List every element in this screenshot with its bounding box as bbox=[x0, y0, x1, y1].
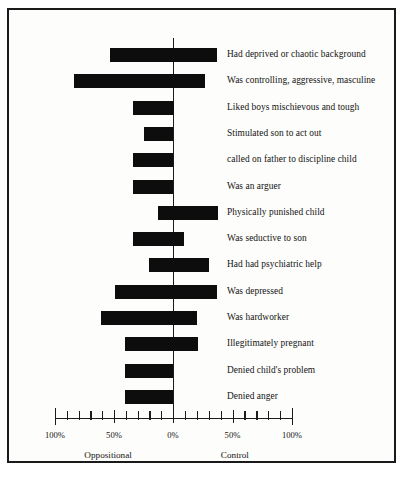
bar-label: Denied child's problem bbox=[227, 361, 315, 379]
axis-tick bbox=[149, 411, 150, 420]
bar bbox=[115, 285, 217, 299]
bar bbox=[133, 153, 173, 167]
axis-tick-label: 100% bbox=[282, 430, 302, 440]
bar-row: Illegitimately pregnant bbox=[9, 331, 394, 357]
bar-row: Had deprived or chaotic background bbox=[9, 42, 394, 68]
bar-label: Illegitimately pregnant bbox=[227, 334, 314, 352]
bar-label: Physically punished child bbox=[227, 203, 325, 221]
bar bbox=[74, 74, 205, 88]
bar-label: Denied anger bbox=[227, 387, 278, 405]
axis-tick bbox=[209, 411, 210, 420]
axis-tick-label: 50% bbox=[106, 430, 122, 440]
bar-label: Was hardworker bbox=[227, 308, 289, 326]
figure-frame: Had deprived or chaotic backgroundWas co… bbox=[7, 8, 396, 463]
bar-label: Was depressed bbox=[227, 282, 283, 300]
bar-label: Had deprived or chaotic background bbox=[227, 45, 366, 63]
bar-row: Liked boys mischievous and tough bbox=[9, 95, 394, 121]
bar bbox=[110, 48, 217, 62]
axis-tick-label: 100% bbox=[45, 430, 65, 440]
bar-row: Denied child's problem bbox=[9, 358, 394, 384]
axis-tick bbox=[256, 411, 257, 420]
bar-row: Was seductive to son bbox=[9, 226, 394, 252]
axis-tick bbox=[126, 411, 127, 420]
axis-tick bbox=[138, 411, 139, 420]
bar bbox=[158, 206, 219, 220]
axis-tick bbox=[102, 411, 103, 420]
axis-group-label-oppositional: Oppositional bbox=[84, 450, 131, 460]
axis-tick-label: 50% bbox=[225, 430, 241, 440]
bar-row: Was depressed bbox=[9, 279, 394, 305]
bar bbox=[149, 258, 208, 272]
axis-tick bbox=[161, 411, 162, 420]
bar-row: Was an arguer bbox=[9, 174, 394, 200]
bar-row: Physically punished child bbox=[9, 200, 394, 226]
axis-tick bbox=[79, 411, 80, 420]
bar-label: Was seductive to son bbox=[227, 229, 307, 247]
axis-tick bbox=[67, 411, 68, 420]
bar bbox=[133, 101, 174, 115]
bar bbox=[125, 390, 173, 404]
bar bbox=[101, 311, 197, 325]
bar bbox=[133, 232, 184, 246]
axis-tick bbox=[197, 411, 198, 420]
bar-label: Stimulated son to act out bbox=[227, 124, 321, 142]
bar-row: Denied anger bbox=[9, 384, 394, 410]
bar-row: Was controlling, aggressive, masculine bbox=[9, 68, 394, 94]
bar-row: called on father to discipline child bbox=[9, 147, 394, 173]
bar-label: Was controlling, aggressive, masculine bbox=[227, 71, 375, 89]
axis-tick bbox=[268, 411, 269, 420]
bar-label: Had had psychiatric help bbox=[227, 255, 322, 273]
axis-tick bbox=[185, 411, 186, 420]
axis-tick bbox=[233, 410, 234, 423]
bar-label: Liked boys mischievous and tough bbox=[227, 98, 359, 116]
bar-label: called on father to discipline child bbox=[227, 150, 357, 168]
axis-tick bbox=[244, 411, 245, 420]
axis-tick-label: 0% bbox=[167, 430, 178, 440]
axis-tick bbox=[221, 411, 222, 420]
axis-tick bbox=[280, 411, 281, 420]
bar-row: Had had psychiatric help bbox=[9, 252, 394, 278]
bar bbox=[144, 127, 174, 141]
bar bbox=[125, 364, 173, 378]
axis-group-label-control: Control bbox=[221, 450, 249, 460]
bar-row: Was hardworker bbox=[9, 305, 394, 331]
axis-tick bbox=[114, 410, 115, 423]
bar bbox=[125, 337, 198, 351]
axis-tick bbox=[55, 408, 56, 425]
plot-area: Had deprived or chaotic backgroundWas co… bbox=[9, 10, 394, 461]
bar bbox=[133, 180, 173, 194]
x-axis: 100%50%0%50%100% Oppositional Control bbox=[9, 408, 394, 428]
bar-label: Was an arguer bbox=[227, 177, 281, 195]
axis-tick bbox=[292, 408, 293, 425]
bar-row: Stimulated son to act out bbox=[9, 121, 394, 147]
axis-tick bbox=[173, 410, 174, 423]
axis-tick bbox=[90, 411, 91, 420]
